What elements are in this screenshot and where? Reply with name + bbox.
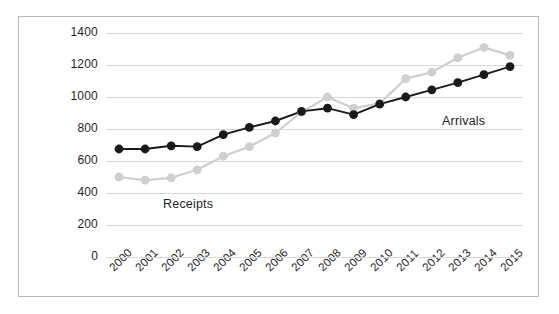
data-point-arrivals [297, 107, 306, 116]
series-line-arrivals [119, 67, 510, 149]
data-point-receipts [167, 173, 176, 182]
data-point-arrivals [219, 130, 228, 139]
data-point-receipts [323, 93, 332, 102]
data-point-arrivals [141, 145, 150, 154]
data-point-receipts [427, 68, 436, 77]
data-point-receipts [506, 51, 515, 60]
data-point-arrivals [271, 117, 280, 126]
series-label-receipts: Receipts [163, 197, 213, 211]
data-point-arrivals [245, 123, 254, 132]
data-point-arrivals [323, 104, 332, 113]
series-label-arrivals: Arrivals [442, 114, 485, 128]
data-point-arrivals [349, 110, 358, 119]
data-point-arrivals [115, 145, 124, 154]
chart-figure: Arrivals in million Receipts in billion … [0, 0, 559, 314]
data-point-arrivals [453, 78, 462, 87]
data-point-arrivals [375, 100, 384, 109]
data-point-arrivals [167, 141, 176, 150]
data-point-receipts [193, 165, 202, 174]
data-point-arrivals [480, 70, 489, 79]
data-point-receipts [141, 176, 150, 185]
data-point-receipts [271, 129, 280, 138]
data-point-arrivals [506, 62, 515, 71]
chart-plot-frame: Arrivals in million Receipts in billion … [18, 16, 539, 297]
data-point-receipts [401, 74, 410, 83]
data-point-receipts [453, 53, 462, 62]
data-point-receipts [219, 152, 228, 161]
data-point-receipts [245, 142, 254, 151]
data-point-receipts [115, 173, 124, 182]
chart-plot-area [19, 17, 538, 296]
data-point-receipts [480, 43, 489, 52]
data-point-arrivals [193, 142, 202, 151]
data-point-arrivals [427, 85, 436, 94]
data-point-arrivals [401, 93, 410, 102]
